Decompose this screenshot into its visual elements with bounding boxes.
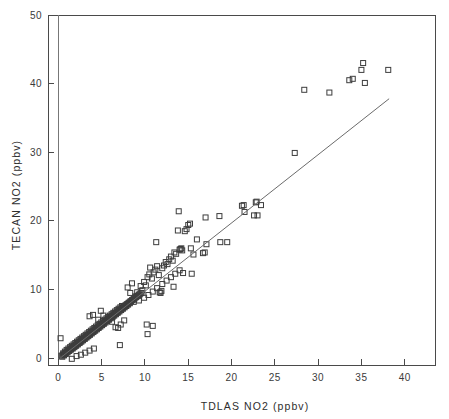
chart-figure: 01020304050 0510152025303540 TDLAS NO2 (… — [0, 0, 449, 419]
data-point-marker — [252, 213, 257, 218]
x-tick-label: 40 — [399, 372, 411, 383]
x-tick-label: 5 — [99, 372, 105, 383]
data-point-marker — [128, 290, 133, 295]
data-point-marker — [386, 67, 391, 72]
data-point-marker — [69, 356, 74, 361]
data-point-marker — [188, 246, 193, 251]
y-tick-label: 30 — [30, 147, 42, 158]
x-tick-label: 0 — [55, 372, 61, 383]
x-tick-label: 35 — [355, 372, 367, 383]
data-point-marker — [150, 323, 155, 328]
x-tick-label: 10 — [139, 372, 151, 383]
data-point-marker — [145, 332, 150, 337]
data-point-marker — [117, 343, 122, 348]
data-point-marker — [98, 308, 103, 313]
data-point-marker — [143, 283, 148, 288]
x-tick-label: 25 — [269, 372, 281, 383]
data-point-marker — [155, 264, 160, 269]
x-tick-label: 30 — [312, 372, 324, 383]
data-point-marker — [302, 87, 307, 92]
data-point-marker — [361, 61, 366, 66]
data-point-marker — [175, 228, 180, 233]
y-tick-label: 40 — [30, 78, 42, 89]
data-point-marker — [255, 213, 260, 218]
y-tick-label: 10 — [30, 284, 42, 295]
data-point-marker — [218, 240, 223, 245]
data-point-marker — [225, 240, 230, 245]
data-point-marker — [362, 80, 367, 85]
data-point-marker — [87, 314, 92, 319]
y-tick-label: 20 — [30, 215, 42, 226]
data-point-marker — [194, 237, 199, 242]
data-point-marker — [359, 67, 364, 72]
plot-frame — [48, 15, 435, 365]
data-point-marker — [203, 215, 208, 220]
data-point-marker — [156, 273, 161, 278]
y-axis-title: TECAN NO2 (ppbv) — [10, 140, 22, 250]
data-point-marker — [347, 78, 352, 83]
x-tick-label: 15 — [182, 372, 194, 383]
scatter-plot: 01020304050 0510152025303540 TDLAS NO2 (… — [0, 0, 449, 419]
data-point-marker — [91, 312, 96, 317]
fit-line — [60, 99, 389, 358]
data-point-marker — [350, 76, 355, 81]
data-point-marker — [176, 209, 181, 214]
data-point-marker — [171, 284, 176, 289]
data-point-marker — [327, 90, 332, 95]
x-tick-label: 20 — [225, 372, 237, 383]
data-point-marker — [189, 271, 194, 276]
y-tick-label: 0 — [36, 353, 42, 364]
data-point-marker — [217, 214, 222, 219]
data-point-marker — [148, 265, 153, 270]
data-point-marker — [144, 322, 149, 327]
data-point-marker — [292, 150, 297, 155]
x-axis-title: TDLAS NO2 (ppbv) — [201, 400, 310, 412]
y-tick-label: 50 — [30, 10, 42, 21]
data-point-marker — [187, 221, 192, 226]
x-axis: 0510152025303540 — [55, 359, 410, 383]
y-axis: 01020304050 — [30, 10, 54, 364]
data-points — [58, 61, 391, 362]
data-point-marker — [154, 240, 159, 245]
